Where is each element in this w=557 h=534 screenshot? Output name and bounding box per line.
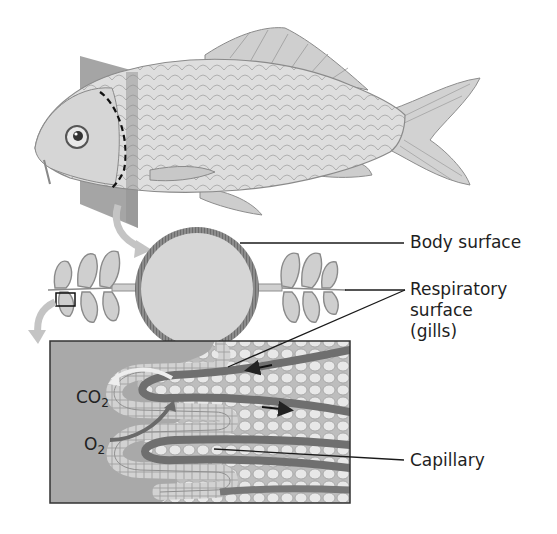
cross-section: [48, 227, 346, 351]
fish-illustration: [35, 28, 480, 228]
co2-base: CO: [76, 387, 101, 407]
label-respiratory-line3: (gills): [410, 321, 457, 341]
gill-right: [281, 253, 346, 322]
label-respiratory-line1: Respiratory: [410, 279, 507, 299]
label-o2: O2: [84, 434, 105, 457]
label-body-surface: Body surface: [410, 232, 521, 252]
co2-subscript: 2: [101, 396, 109, 410]
gill-detail-panel: [50, 341, 350, 503]
body-interior: [141, 233, 253, 345]
label-respiratory-line2: surface: [410, 300, 473, 320]
label-co2: CO2: [76, 387, 109, 410]
gill-left: [48, 251, 120, 322]
o2-subscript: 2: [97, 443, 105, 457]
label-capillary: Capillary: [410, 450, 485, 470]
o2-base: O: [84, 434, 97, 454]
